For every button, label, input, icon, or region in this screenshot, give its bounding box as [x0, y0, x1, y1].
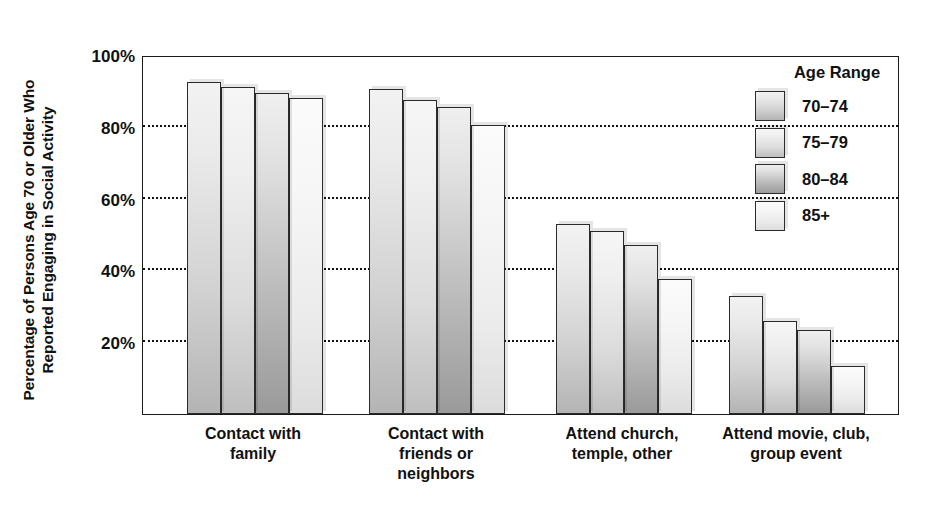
bar	[590, 231, 624, 414]
bar	[255, 93, 289, 414]
y-axis-tick-80: 80%	[51, 120, 135, 137]
x-axis-label-line: Attend movie, club,	[686, 424, 906, 444]
bar-group-2	[369, 57, 505, 414]
bar	[763, 321, 797, 414]
y-axis-tick-40: 40%	[51, 263, 135, 280]
legend-swatch-icon	[755, 164, 785, 194]
bar	[797, 330, 831, 414]
y-axis-tick-60: 60%	[51, 192, 135, 209]
bar	[471, 125, 505, 414]
legend-label: 75–79	[802, 133, 848, 152]
x-axis-label-line: neighbors	[326, 464, 546, 484]
bar	[187, 82, 221, 414]
y-axis-tick-100: 100%	[51, 48, 135, 65]
legend-item-85-: 85+	[755, 201, 893, 231]
bar	[403, 100, 437, 414]
x-axis-label-line: group event	[686, 444, 906, 464]
x-axis-label-4: Attend movie, club,group event	[686, 424, 906, 464]
legend-item-75-79: 75–79	[755, 128, 893, 158]
bar	[729, 296, 763, 414]
bar	[658, 279, 692, 414]
legend-rows: 70–7475–7980–8485+	[755, 91, 893, 231]
bar	[624, 245, 658, 414]
legend-label: 85+	[802, 206, 830, 225]
legend-item-70-74: 70–74	[755, 91, 893, 121]
bar	[437, 107, 471, 414]
plot-area: Age Range 70–7475–7980–8485+	[142, 56, 899, 415]
y-axis-tick-labels: 20%40%60%80%100%	[30, 0, 135, 521]
bar	[556, 224, 590, 414]
bar-chart: Percentage of Persons Age 70 or Older Wh…	[0, 0, 928, 521]
legend-swatch-icon	[755, 201, 785, 231]
bar	[831, 366, 865, 414]
bar	[289, 98, 323, 414]
legend-title: Age Range	[781, 63, 893, 82]
legend-item-80-84: 80–84	[755, 164, 893, 194]
legend-swatch-icon	[755, 91, 785, 121]
legend: Age Range 70–7475–7980–8485+	[755, 63, 893, 237]
bar	[221, 87, 255, 414]
legend-label: 80–84	[802, 170, 848, 189]
legend-swatch-icon	[755, 128, 785, 158]
bar-group-1	[187, 57, 323, 414]
bar-group-3	[556, 57, 692, 414]
y-axis-tick-20: 20%	[51, 335, 135, 352]
bar	[369, 89, 403, 414]
legend-label: 70–74	[802, 97, 848, 116]
